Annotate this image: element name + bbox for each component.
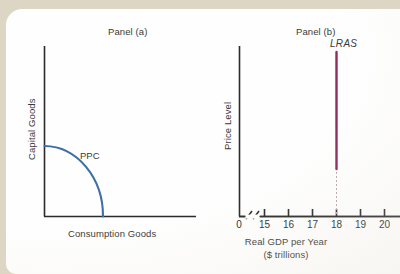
panel-b-origin-label: 0 xyxy=(236,219,242,230)
panel-b-tick-label-19: 19 xyxy=(355,219,366,230)
panel-b-x-axis-label-line1: Real GDP per Year xyxy=(245,236,327,247)
panel-b-tick-label-16: 16 xyxy=(283,219,294,230)
panel-b-tick-label-17: 17 xyxy=(307,219,318,230)
axis-break-gap xyxy=(245,215,260,219)
panel-b-x-axis-label-line2: ($ trillions) xyxy=(263,249,308,260)
panel-b-tick-label-20: 20 xyxy=(379,219,390,230)
figure-screenshot: Panel (a) Capital Goods Consumption Good… xyxy=(0,0,400,274)
panel-b-tick-label-18: 18 xyxy=(331,219,342,230)
panel-b-tick-label-15: 15 xyxy=(259,219,270,230)
panel-b-ticks xyxy=(265,209,385,217)
figure-canvas: Panel (a) Capital Goods Consumption Good… xyxy=(0,0,400,274)
panel-b-plot xyxy=(0,0,400,274)
